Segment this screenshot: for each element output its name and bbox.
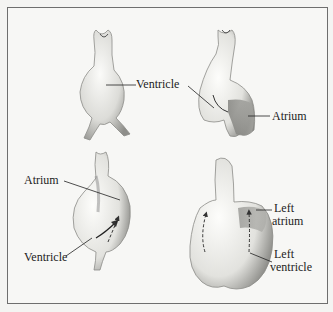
label-ventricle-stage-3: Ventricle [24, 251, 67, 264]
stage-4-heart [190, 158, 273, 289]
label-ventricle-stage-1: Ventricle [136, 78, 179, 91]
stage-2-looping-heart [188, 30, 270, 137]
stage-3-heart [64, 152, 130, 270]
label-left-atrium-line2: atrium [272, 215, 303, 228]
label-left-ventricle-line2: ventricle [270, 261, 312, 274]
label-atrium-stage-3: Atrium [24, 174, 59, 187]
label-atrium-stage-2: Atrium [272, 110, 307, 123]
stage-1-heart-tube [80, 30, 136, 140]
